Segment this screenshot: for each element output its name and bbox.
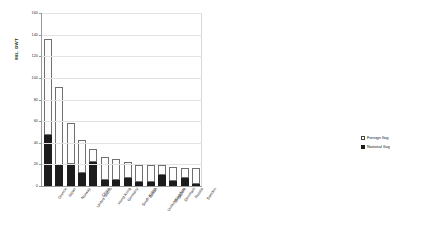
y-axis-tick xyxy=(39,78,42,79)
y-axis-tick-label: 0 xyxy=(22,184,38,188)
bar-segment-national-flag xyxy=(124,178,132,186)
plot-area xyxy=(41,13,202,186)
bar xyxy=(112,159,120,186)
bar-segment-national-flag xyxy=(101,180,109,186)
bar xyxy=(67,123,75,186)
bar xyxy=(192,168,200,186)
bar-segment-foreign-flag xyxy=(158,165,166,175)
legend-item-national-flag: National flag xyxy=(361,145,390,149)
bar-segment-foreign-flag xyxy=(135,165,143,181)
y-axis-tick-label: 160 xyxy=(22,11,38,15)
bar xyxy=(158,165,166,186)
y-axis-tick-label: 20 xyxy=(22,162,38,166)
bar-segment-foreign-flag xyxy=(112,159,120,180)
bar-segment-foreign-flag xyxy=(78,140,86,174)
bar-segment-national-flag xyxy=(78,173,86,186)
bar xyxy=(101,157,109,186)
bar-segment-national-flag xyxy=(158,175,166,186)
bar-segment-foreign-flag xyxy=(67,123,75,164)
bar-segment-foreign-flag xyxy=(101,157,109,180)
legend-swatch-national-flag-icon xyxy=(361,145,365,149)
bar-segment-foreign-flag xyxy=(147,165,155,181)
bar-segment-national-flag xyxy=(67,164,75,186)
y-axis-tick-label: 120 xyxy=(22,54,38,58)
x-axis-tick-label: Greece xyxy=(57,187,68,200)
gridline xyxy=(42,78,202,79)
x-axis-tick-label: Japan xyxy=(68,187,77,198)
bar xyxy=(55,87,63,186)
gridline xyxy=(42,35,202,36)
y-axis-tick xyxy=(39,143,42,144)
bar-segment-national-flag xyxy=(135,182,143,186)
bar-segment-foreign-flag xyxy=(55,87,63,166)
bar xyxy=(147,165,155,186)
gridline xyxy=(42,164,202,165)
bar-segment-national-flag xyxy=(181,178,189,186)
gridline xyxy=(42,56,202,57)
bar xyxy=(124,162,132,186)
y-axis-tick-label: 40 xyxy=(22,141,38,145)
x-axis-tick-label: Sweden xyxy=(206,187,217,201)
bar-segment-foreign-flag xyxy=(192,168,200,184)
bar-segment-national-flag xyxy=(112,180,120,186)
y-axis-tick xyxy=(39,13,42,14)
gridline xyxy=(42,100,202,101)
gridline xyxy=(42,121,202,122)
y-axis-tick xyxy=(39,35,42,36)
y-axis-tick xyxy=(39,100,42,101)
y-axis-tick-label: 140 xyxy=(22,33,38,37)
legend-label-national-flag: National flag xyxy=(367,145,390,149)
gridline xyxy=(42,143,202,144)
y-axis-tick xyxy=(39,56,42,57)
bar-segment-foreign-flag xyxy=(169,167,177,181)
x-axis-tick-label: Norway xyxy=(80,187,91,200)
legend-swatch-foreign-flag-icon xyxy=(361,136,365,140)
y-axis-tick xyxy=(39,121,42,122)
bar-segment-foreign-flag xyxy=(89,149,97,162)
y-axis-tick-label: 80 xyxy=(22,98,38,102)
x-axis-tick-labels: GreeceJapanNorwayUnited StatesChinaHong … xyxy=(41,187,202,242)
bar xyxy=(169,167,177,186)
bar xyxy=(181,168,189,186)
legend-label-foreign-flag: Foreign flag xyxy=(367,136,389,140)
legend-item-foreign-flag: Foreign flag xyxy=(361,136,390,140)
bar-segment-national-flag xyxy=(89,162,97,186)
bar-segment-national-flag xyxy=(169,181,177,186)
bar-segment-national-flag xyxy=(55,165,63,186)
chart-legend: Foreign flag National flag xyxy=(361,136,390,154)
y-axis-tick xyxy=(39,164,42,165)
y-axis-tick-labels: 020406080100120140160 xyxy=(21,13,38,186)
bar xyxy=(89,149,97,186)
bar-chart: MIL. DWT 020406080100120140160 GreeceJap… xyxy=(0,0,427,242)
y-axis-tick-label: 60 xyxy=(22,119,38,123)
bar-segment-national-flag xyxy=(147,182,155,186)
bar-segment-foreign-flag xyxy=(181,168,189,179)
gridline xyxy=(42,13,202,14)
y-axis-title: MIL. DWT xyxy=(14,26,19,72)
bar xyxy=(78,140,86,186)
y-axis-tick-label: 100 xyxy=(22,76,38,80)
bar xyxy=(135,165,143,186)
